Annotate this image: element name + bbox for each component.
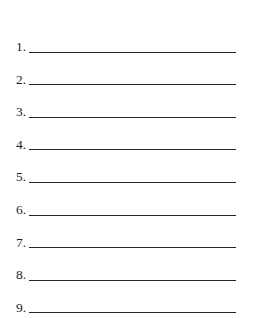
write-on-rule[interactable] bbox=[29, 312, 236, 313]
write-on-rule[interactable] bbox=[29, 215, 236, 216]
write-on-rule[interactable] bbox=[29, 182, 236, 183]
worksheet-page: 1. 2. 3. 4. 5. 6. 7. 8. bbox=[0, 0, 257, 318]
list-item-number: 2. bbox=[16, 73, 26, 88]
list-item[interactable]: 1. bbox=[16, 22, 236, 55]
write-on-rule[interactable] bbox=[29, 280, 236, 281]
list-item[interactable]: 7. bbox=[16, 218, 236, 251]
list-item-number: 9. bbox=[16, 301, 26, 316]
list-item-number: 3. bbox=[16, 105, 26, 120]
list-item-number: 8. bbox=[16, 268, 26, 283]
list-item-number: 1. bbox=[16, 40, 26, 55]
list-item[interactable]: 9. bbox=[16, 283, 236, 316]
list-item[interactable]: 5. bbox=[16, 152, 236, 185]
list-item-number: 4. bbox=[16, 138, 26, 153]
write-on-rule[interactable] bbox=[29, 84, 236, 85]
list-item[interactable]: 3. bbox=[16, 87, 236, 120]
numbered-list: 1. 2. 3. 4. 5. 6. 7. 8. bbox=[16, 22, 236, 315]
write-on-rule[interactable] bbox=[29, 149, 236, 150]
list-item-number: 6. bbox=[16, 203, 26, 218]
write-on-rule[interactable] bbox=[29, 52, 236, 53]
list-item[interactable]: 8. bbox=[16, 250, 236, 283]
list-item-number: 5. bbox=[16, 170, 26, 185]
list-item-number: 7. bbox=[16, 236, 26, 251]
write-on-rule[interactable] bbox=[29, 247, 236, 248]
list-item[interactable]: 2. bbox=[16, 55, 236, 88]
list-item[interactable]: 4. bbox=[16, 120, 236, 153]
write-on-rule[interactable] bbox=[29, 117, 236, 118]
list-item[interactable]: 6. bbox=[16, 185, 236, 218]
